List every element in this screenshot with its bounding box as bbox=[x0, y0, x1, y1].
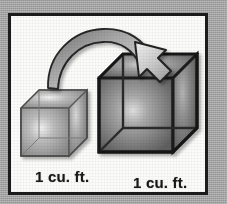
scanned-page-background: 1 cu. ft. 1 cu. ft. bbox=[0, 0, 227, 204]
illustration-artwork bbox=[11, 16, 205, 192]
illustration-panel: 1 cu. ft. 1 cu. ft. bbox=[8, 13, 208, 195]
caption-large-cube: 1 cu. ft. bbox=[133, 174, 187, 191]
small-cube bbox=[21, 90, 87, 156]
cube-comparison-drawing bbox=[11, 16, 205, 192]
caption-small-cube: 1 cu. ft. bbox=[35, 168, 89, 185]
